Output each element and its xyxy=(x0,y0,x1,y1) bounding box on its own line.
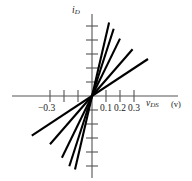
x-axis-unit: (v) xyxy=(171,100,181,109)
x-tick-label-0.1: 0.1 xyxy=(100,104,112,114)
x-axis-label: vDS xyxy=(146,99,159,109)
axis-lines xyxy=(12,14,178,178)
y-axis-label-subscript: D xyxy=(75,8,80,16)
x-tick-label-0.3: 0.3 xyxy=(128,104,140,114)
chart-canvas xyxy=(0,0,192,181)
x-tick-label-0.2: 0.2 xyxy=(114,104,126,114)
y-axis-label: iD xyxy=(72,6,80,16)
x-tick-label--0.3: −0.3 xyxy=(38,104,55,114)
x-axis-label-subscript: DS xyxy=(150,101,159,109)
figure-mosfet-triode-characteristics: iD vDS (v) −0.3 0.1 0.2 0.3 xyxy=(0,0,192,181)
